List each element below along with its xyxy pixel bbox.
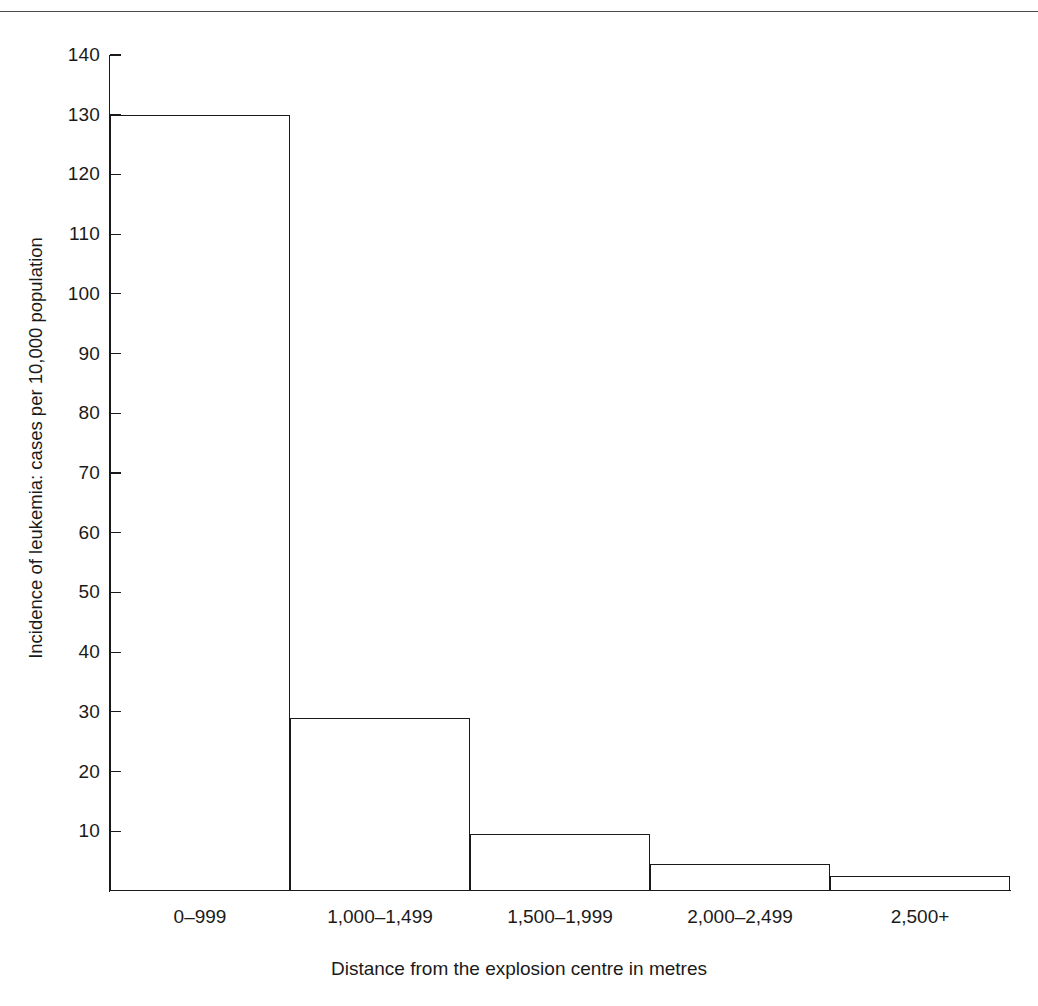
y-axis-tick-label-text: 30 (78, 702, 100, 721)
plot-area (110, 55, 1010, 891)
y-axis-tick-label-text: 70 (78, 463, 100, 482)
y-axis-tick-label-text: 50 (78, 582, 100, 601)
y-axis-tick-label-text: 10 (78, 821, 100, 840)
y-axis-title: Incidence of leukemia: cases per 10,000 … (26, 88, 46, 808)
y-axis-tick-label-text: 110 (69, 224, 100, 243)
y-axis-tick-label-text: 60 (78, 523, 100, 542)
chart-figure: 140130120110100908070605040302010 0–9991… (0, 0, 1038, 1006)
y-axis-tick-label-text: 120 (68, 164, 100, 183)
y-axis-tick-label-text: 20 (78, 762, 100, 781)
bar (110, 115, 290, 891)
x-axis-title: Distance from the explosion centre in me… (0, 958, 1038, 980)
x-axis-tick-label: 1,500–1,999 (470, 906, 650, 928)
bar (290, 718, 470, 891)
top-divider-rule (0, 11, 1038, 12)
x-axis-tick-label: 0–999 (110, 906, 290, 928)
bar (470, 834, 650, 891)
x-axis-tick-label: 2,000–2,499 (650, 906, 830, 928)
y-axis-tick-label-text: 140 (68, 45, 100, 64)
y-axis-tick-label-text: 80 (78, 403, 100, 422)
y-axis-tick-label-text: 90 (78, 344, 100, 363)
bar (830, 876, 1010, 891)
bar (650, 864, 830, 891)
y-axis-tick-label-text: 100 (68, 284, 100, 303)
y-axis-tick-label-text: 40 (78, 642, 100, 661)
y-axis-tick-label-text: 130 (68, 105, 100, 124)
x-axis-tick-label: 1,000–1,499 (290, 906, 470, 928)
x-axis-tick-label: 2,500+ (830, 906, 1010, 928)
